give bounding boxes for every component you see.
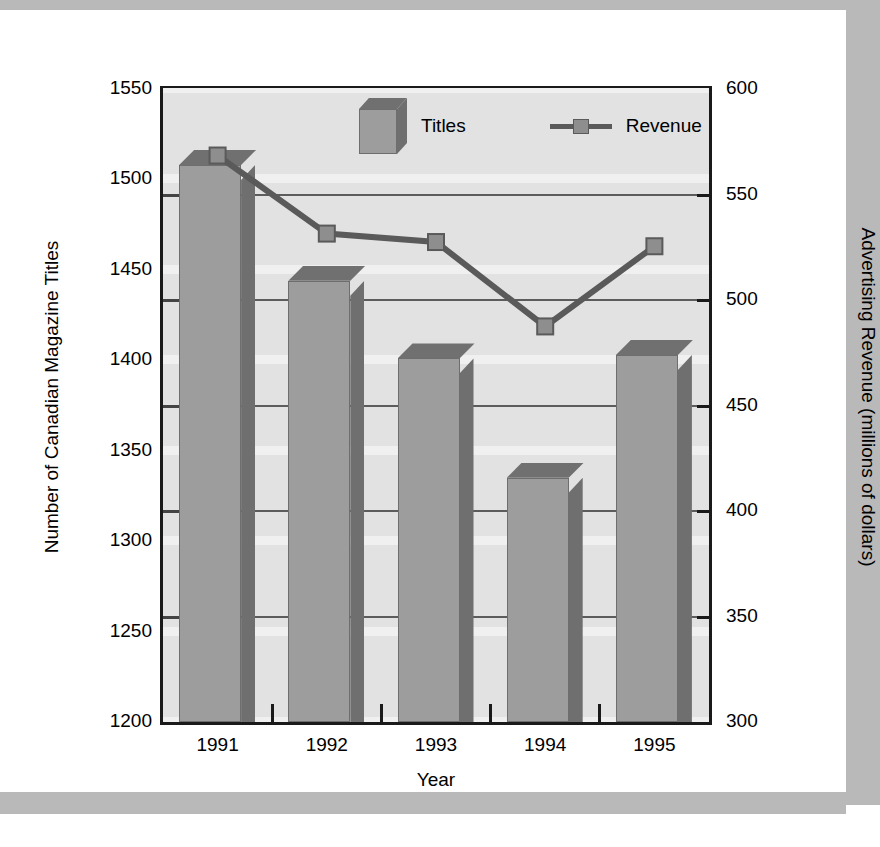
- line-marker: [428, 234, 444, 250]
- plot-area: Titles Revenue: [160, 86, 712, 725]
- right-tick-label: 550: [726, 183, 758, 205]
- right-tick-label: 400: [726, 499, 758, 521]
- line-marker: [537, 318, 553, 334]
- plot-inner: Titles Revenue: [163, 88, 709, 722]
- left-tick-label: 1450: [110, 258, 152, 280]
- legend-entry-revenue: Revenue: [550, 115, 702, 137]
- x-tick-label: 1991: [163, 734, 272, 756]
- y-axis-left-title: Number of Canadian Magazine Titles: [41, 187, 63, 607]
- line-marker: [646, 238, 662, 254]
- page-background: 15501500145014001350130012501200 6005505…: [0, 0, 880, 847]
- y-axis-right-title: Advertising Revenue (millions of dollars…: [857, 117, 879, 677]
- right-tick-label: 450: [726, 394, 758, 416]
- line-marker: [210, 148, 226, 164]
- right-tick-label: 500: [726, 288, 758, 310]
- x-tick-label: 1992: [272, 734, 381, 756]
- right-tick-label: 350: [726, 605, 758, 627]
- x-axis-title: Year: [160, 769, 712, 791]
- x-tick-label: 1993: [381, 734, 490, 756]
- line-series-revenue: [163, 88, 709, 721]
- left-tick-label: 1250: [110, 620, 152, 642]
- legend-label-revenue: Revenue: [626, 115, 702, 137]
- scan-band-top: [0, 0, 880, 10]
- right-tick-label: 600: [726, 77, 758, 99]
- line-marker: [319, 226, 335, 242]
- line-marker-swatch-icon: [550, 117, 612, 135]
- left-tick-label: 1300: [110, 529, 152, 551]
- x-tick-label: 1994: [491, 734, 600, 756]
- left-tick-label: 1200: [110, 710, 152, 732]
- x-tick-label: 1995: [600, 734, 709, 756]
- left-tick-label: 1500: [110, 167, 152, 189]
- legend-label-titles: Titles: [421, 115, 466, 137]
- chart-figure: 15501500145014001350130012501200 6005505…: [8, 18, 842, 790]
- left-tick-label: 1550: [110, 77, 152, 99]
- right-tick-label: 300: [726, 710, 758, 732]
- left-tick-label: 1400: [110, 348, 152, 370]
- chart-legend: Titles Revenue: [359, 98, 702, 154]
- left-tick-label: 1350: [110, 439, 152, 461]
- legend-entry-titles: Titles: [359, 98, 466, 154]
- cube-swatch-icon: [359, 98, 407, 154]
- scan-band-bottom: [0, 792, 846, 814]
